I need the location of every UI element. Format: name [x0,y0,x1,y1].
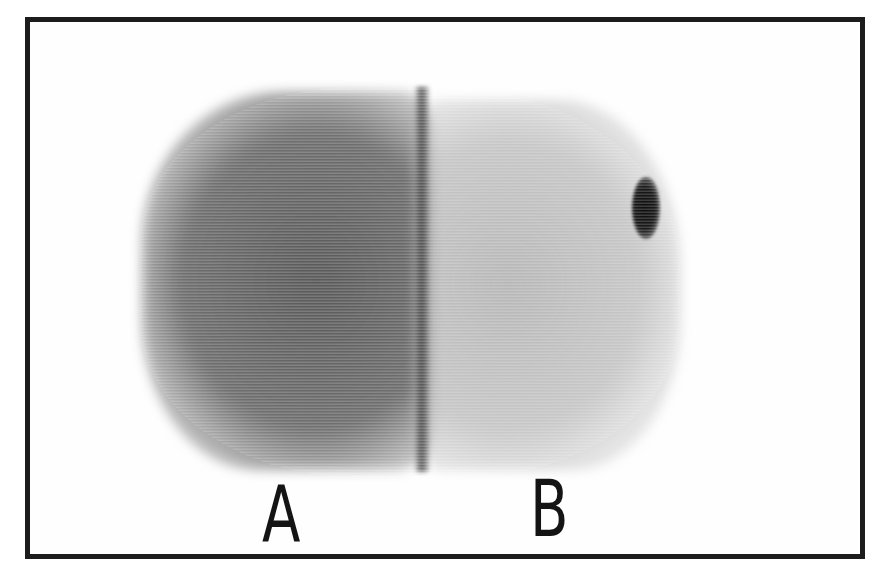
label-a: A [262,476,300,554]
image-area [30,22,860,554]
noise-texture [140,87,680,477]
label-b: B [530,470,569,548]
figure-frame: A B [25,17,865,559]
